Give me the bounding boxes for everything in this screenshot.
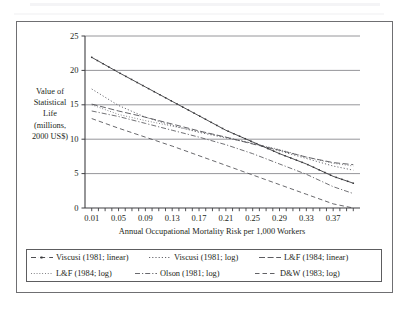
series-marker <box>239 135 241 137</box>
y-axis-title-line-2: Statistical <box>19 97 81 108</box>
series-marker <box>256 143 258 145</box>
series-marker <box>171 100 173 102</box>
gridlines <box>85 36 360 174</box>
series-marker <box>165 97 167 99</box>
series-marker <box>182 106 184 108</box>
series-marker <box>284 155 286 157</box>
legend-entry[interactable]: L&F (1984; linear) <box>259 253 348 262</box>
x-axis-tick-label: 0.01 <box>79 214 105 223</box>
series-marker <box>114 69 116 71</box>
series-marker <box>142 85 144 87</box>
series-2 <box>92 89 354 170</box>
series-marker <box>108 66 110 68</box>
legend-label: L&F (1984; linear) <box>284 253 348 262</box>
legend-swatch-dw-log <box>255 269 277 278</box>
y-axis-tick-label: 25 <box>57 32 79 41</box>
x-axis-title: Annual Occupational Mortality Risk per 1… <box>47 227 377 236</box>
series-marker <box>159 94 161 96</box>
legend-entry[interactable]: Viscusi (1981; log) <box>149 253 238 262</box>
series-marker <box>335 177 337 179</box>
series-marker <box>188 109 190 111</box>
series-marker <box>318 169 320 171</box>
x-axis-tick-label: 0.17 <box>186 214 212 223</box>
series-1 <box>91 57 354 184</box>
x-axis-tick-label: 0.25 <box>240 214 266 223</box>
series-4 <box>92 105 354 166</box>
chart-plot-region: 0510152025 0.010.050.090.130.170.210.250… <box>17 22 394 294</box>
series-marker <box>199 115 201 117</box>
x-axis-tick-label: 0.37 <box>320 214 346 223</box>
series-marker <box>353 182 355 184</box>
x-axis-tick-label: 0.09 <box>132 214 158 223</box>
y-axis-tick-label: 5 <box>57 169 79 178</box>
chart-legend: Viscusi (1981; linear)Viscusi (1981; log… <box>26 249 382 282</box>
series-marker <box>250 140 252 142</box>
series-marker <box>227 131 229 133</box>
series-marker <box>97 60 99 62</box>
series-line <box>92 111 354 194</box>
axes <box>85 36 360 208</box>
series-marker <box>154 91 156 93</box>
x-axis-tick-label: 0.13 <box>159 214 185 223</box>
legend-label: Viscusi (1981; linear) <box>56 253 129 262</box>
y-axis-title-line-4: (millions, <box>19 120 81 131</box>
legend-entry[interactable]: D&W (1983; log) <box>255 269 340 278</box>
legend-swatch-olson-log <box>135 269 157 278</box>
y-axis-title: Value of Statistical Life (millions, 200… <box>19 86 81 142</box>
scan-artifact <box>14 13 384 15</box>
series-marker <box>131 79 133 81</box>
legend-swatch-lf-log <box>31 269 53 278</box>
series-marker <box>301 162 303 164</box>
legend-entry[interactable]: Viscusi (1981; linear) <box>31 253 129 262</box>
series-marker <box>222 128 224 130</box>
x-axis-tick-label: 0.33 <box>293 214 319 223</box>
legend-label: Olson (1981; log) <box>160 269 220 278</box>
series-marker <box>102 63 104 65</box>
series-marker <box>205 119 207 121</box>
series-marker <box>119 73 121 75</box>
x-axis-tick-label: 0.05 <box>106 214 132 223</box>
series-marker <box>125 76 127 78</box>
series-marker <box>273 150 275 152</box>
x-axis-tick-label: 0.29 <box>267 214 293 223</box>
series-line <box>92 89 354 170</box>
figure-frame: 0510152025 0.010.050.090.130.170.210.250… <box>16 21 393 293</box>
series-marker <box>341 179 343 181</box>
legend-label: D&W (1983; log) <box>280 269 340 278</box>
legend-row: L&F (1984; log)Olson (1981; log)D&W (198… <box>27 266 381 282</box>
series-marker <box>193 112 195 114</box>
series-marker <box>307 164 309 166</box>
series-marker <box>296 159 298 161</box>
y-axis-tick-label: 0 <box>57 204 79 213</box>
data-series-group <box>91 57 354 208</box>
legend-entry[interactable]: Olson (1981; log) <box>135 269 220 278</box>
y-axis-title-line-3: Life <box>19 108 81 119</box>
series-marker <box>313 167 315 169</box>
legend-swatch-viscusi-linear <box>31 253 53 262</box>
series-marker <box>216 125 218 127</box>
series-marker <box>136 82 138 84</box>
series-marker <box>210 122 212 124</box>
series-line <box>92 104 354 165</box>
series-marker <box>324 172 326 174</box>
y-axis-title-line-1: Value of <box>19 86 81 97</box>
y-axis-title-line-5: 2000 US$) <box>19 131 81 142</box>
legend-row: Viscusi (1981; linear)Viscusi (1981; log… <box>27 250 381 266</box>
legend-entry[interactable]: L&F (1984; log) <box>31 269 112 278</box>
series-line <box>92 119 354 208</box>
series-marker <box>290 157 292 159</box>
series-5 <box>92 111 354 194</box>
x-axis-tick-label: 0.21 <box>213 214 239 223</box>
series-marker <box>347 181 349 183</box>
series-marker <box>233 133 235 135</box>
series-line <box>92 105 354 166</box>
series-marker <box>279 153 281 155</box>
series-3 <box>92 104 354 165</box>
legend-swatch-lf-linear <box>259 253 281 262</box>
y-axis-tick-label: 20 <box>57 66 79 75</box>
series-6 <box>92 119 354 208</box>
series-marker <box>245 138 247 140</box>
legend-label: Viscusi (1981; log) <box>174 253 238 262</box>
series-marker <box>330 174 332 176</box>
series-marker <box>176 103 178 105</box>
